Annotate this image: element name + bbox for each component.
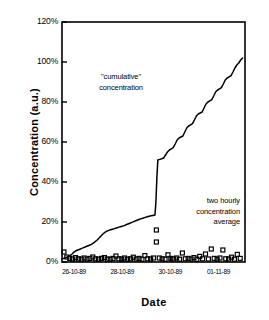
y-tick-label: 20%	[12, 216, 58, 226]
annotation-two-hourly-average: two hourlyconcentrationaverage	[160, 196, 240, 228]
y-tick-label: 40%	[12, 176, 58, 186]
two-hourly-marker	[209, 247, 213, 251]
two-hourly-marker	[204, 252, 208, 256]
y-tick-label: 80%	[12, 96, 58, 106]
two-hourly-marker	[206, 257, 210, 261]
annotation-cumulative-concentration: "cumulative"concentration	[78, 72, 164, 93]
y-tick-label: 60%	[12, 136, 58, 146]
chart-figure: Concentration (a.u.) Date 0%20%40%60%80%…	[0, 0, 269, 320]
x-axis-title: Date	[62, 296, 246, 308]
annotation-line: concentration	[160, 207, 240, 218]
y-tick-label: 100%	[12, 56, 58, 66]
annotation-line: average	[160, 217, 240, 228]
y-tick-label: 0%	[12, 256, 58, 266]
annotation-line: two hourly	[160, 196, 240, 207]
y-tick-label: 120%	[12, 16, 58, 26]
two-hourly-marker	[154, 240, 158, 244]
two-hourly-marker	[154, 228, 158, 232]
two-hourly-marker	[235, 252, 239, 256]
two-hourly-marker	[62, 250, 66, 254]
two-hourly-marker	[238, 256, 242, 260]
annotation-line: concentration	[78, 83, 164, 94]
x-tick-label: 01-11-89	[189, 268, 249, 275]
two-hourly-marker	[180, 251, 184, 255]
two-hourly-marker	[221, 248, 225, 252]
annotation-line: "cumulative"	[78, 72, 164, 83]
